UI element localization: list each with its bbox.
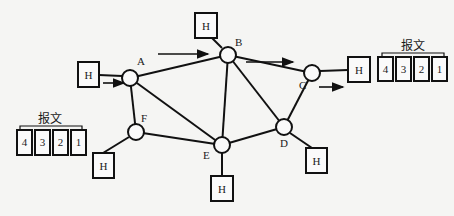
node-c [304,65,320,81]
node-d [276,119,292,135]
packet-number: 2 [419,63,425,75]
node-f [128,124,144,140]
packet-number: 4 [383,63,389,75]
svg-text:H: H [355,64,363,76]
network-diagram-svg: A B C D E F H H H H [0,0,454,216]
link-host-b [212,38,222,48]
host-b: H [195,13,217,38]
svg-text:H: H [218,183,226,195]
link-host-d [290,133,312,148]
svg-text:H: H [313,155,321,167]
host-e: H [211,176,233,201]
packet-number: 4 [22,136,28,148]
packet-number: 1 [76,136,82,148]
switch-nodes [122,47,320,153]
svg-text:H: H [85,69,93,81]
node-label-e: E [203,149,210,161]
svg-text:H: H [202,20,210,32]
message-right: 报文 4 3 2 1 [378,38,447,81]
link-b-e [222,55,228,145]
node-label-b: B [235,36,242,48]
node-label-f: F [141,112,147,124]
message-label: 报文 [401,38,425,53]
node-e [214,137,230,153]
packet-number: 3 [40,136,46,148]
link-f-e [136,132,222,145]
packet-number: 1 [437,63,443,75]
host-a: H [78,62,99,87]
host-c: H [348,57,370,82]
host-f: H [93,153,114,178]
link-host-c [320,70,348,71]
link-host-a [99,75,122,76]
node-label-a: A [137,55,145,67]
svg-text:H: H [100,160,108,172]
node-a [122,70,138,86]
link-c-d [284,73,312,127]
packet-number: 2 [58,136,64,148]
packet-number: 3 [401,63,407,75]
link-host-f [103,137,129,153]
node-label-d: D [280,137,288,149]
node-b [220,47,236,63]
node-label-c: C [299,79,306,91]
link-e-d [222,127,284,145]
packet-switching-network-diagram: A B C D E F H H H H [0,0,454,216]
message-left: 报文 4 3 2 1 [17,111,86,155]
message-label: 报文 [38,111,62,126]
host-d: H [306,148,327,173]
